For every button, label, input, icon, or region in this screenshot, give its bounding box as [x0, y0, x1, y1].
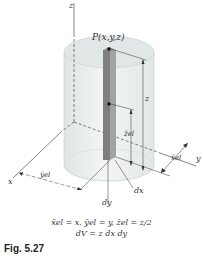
- figure-5-27: z P(x,y,z) z z̄el x̄el y x ȳel dy dx x̄e…: [0, 0, 203, 258]
- point-p-label: P(x,y,z): [92, 33, 125, 42]
- centroid-marker: [107, 102, 111, 106]
- centroid-equations: x̄el = x, ȳel = y, z̄el = z/2: [0, 219, 203, 227]
- dy-label: dy: [102, 199, 112, 207]
- volume-equation: dV = z dx dy: [0, 230, 203, 238]
- figure-caption: Fig. 5.27: [4, 243, 44, 254]
- z-dimension-label: z: [145, 95, 149, 103]
- volume-element-bar: [103, 47, 116, 160]
- xel-label: x̄el: [171, 155, 181, 162]
- x-axis-label: x: [8, 178, 13, 186]
- y-axis-label: y: [196, 155, 201, 163]
- point-p-marker: [107, 47, 111, 51]
- zel-label: z̄el: [124, 131, 134, 138]
- dx-label: dx: [134, 187, 144, 195]
- z-axis-label: z: [69, 2, 73, 10]
- yel-label: ȳel: [40, 172, 50, 179]
